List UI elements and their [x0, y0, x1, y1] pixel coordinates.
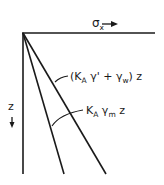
line-ka-gamma-prime-plus-gamma-w-z [23, 33, 106, 174]
line-ka-gamma-m-z [23, 33, 64, 174]
sigma-x-arrow-head [111, 21, 118, 27]
leader-inner-label [52, 110, 83, 126]
sigma-symbol: σ [92, 16, 100, 30]
outer-line-label: (KA γ' + γw) z [70, 71, 142, 82]
sigma-subscript: x [100, 23, 104, 32]
inner-line-label: KA γm z [86, 105, 125, 116]
diagram-canvas [0, 0, 164, 185]
leader-outer-label [55, 76, 68, 82]
z-arrow-head [10, 122, 15, 128]
sigma-x-label: σx [92, 17, 104, 29]
z-axis-label: z [8, 101, 14, 112]
